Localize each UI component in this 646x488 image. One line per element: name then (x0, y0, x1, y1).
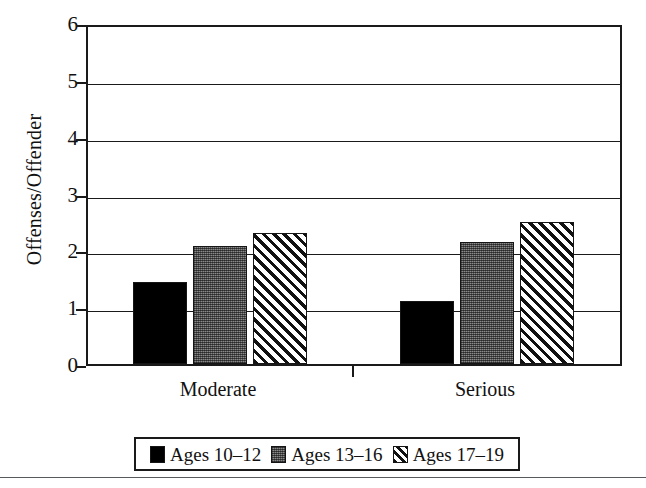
legend-item: Ages 13–16 (266, 445, 387, 464)
x-axis-category-label: Serious (395, 378, 575, 401)
legend-label: Ages 10–12 (170, 445, 261, 464)
legend-label: Ages 13–16 (291, 445, 382, 464)
y-axis-tick-mark (76, 25, 86, 27)
legend-label: Ages 17–19 (413, 445, 504, 464)
y-axis-tick-mark (76, 309, 86, 311)
bar (193, 246, 247, 364)
bar-chart-figure: Offenses/Offender 0123456 ModerateSeriou… (0, 0, 646, 488)
plot-area (86, 25, 622, 366)
y-axis-tick-label: 4 (38, 128, 78, 149)
y-axis-tick-label: 5 (38, 71, 78, 92)
bar (133, 282, 187, 364)
y-axis-tick-label: 2 (38, 241, 78, 262)
y-axis-tick-label: 3 (38, 185, 78, 206)
bar (460, 242, 514, 364)
legend-swatch-icon (393, 446, 408, 463)
y-axis-tick-label: 0 (38, 355, 78, 376)
legend-item: Ages 17–19 (388, 445, 509, 464)
gridline (88, 198, 620, 199)
gridline (88, 84, 620, 85)
legend-item: Ages 10–12 (145, 445, 266, 464)
y-axis-tick-mark (76, 139, 86, 141)
y-axis-tick-label: 1 (38, 298, 78, 319)
y-axis-tick-mark (76, 196, 86, 198)
gridline (88, 141, 620, 142)
x-axis-tick-mark (352, 366, 354, 377)
legend-swatch-icon (150, 446, 165, 463)
legend-swatch-icon (271, 446, 286, 463)
y-axis-tick-mark (76, 366, 86, 368)
chart-legend: Ages 10–12Ages 13–16Ages 17–19 (134, 437, 520, 471)
y-axis-tick-mark (76, 82, 86, 84)
bar (400, 301, 454, 364)
footer-divider (0, 477, 646, 478)
bar (253, 233, 307, 364)
x-axis-category-label: Moderate (128, 378, 308, 401)
y-axis-tick-label: 6 (38, 14, 78, 35)
y-axis-tick-mark (76, 252, 86, 254)
bar (520, 222, 574, 364)
